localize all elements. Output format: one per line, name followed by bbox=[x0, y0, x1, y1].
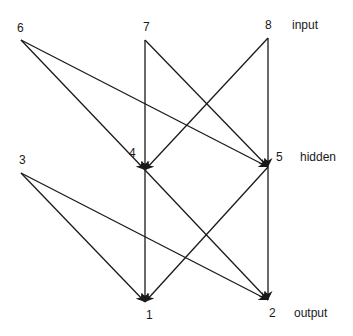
node-label-1: 1 bbox=[146, 309, 153, 321]
network-diagram bbox=[0, 0, 353, 336]
node-label-7: 7 bbox=[143, 21, 150, 33]
node-label-8: 8 bbox=[265, 19, 272, 31]
layer-label-input: input bbox=[292, 19, 318, 31]
node-label-3: 3 bbox=[19, 154, 26, 166]
layer-label-output: output bbox=[294, 307, 327, 319]
node-label-5: 5 bbox=[276, 151, 283, 163]
layer-label-hidden: hidden bbox=[300, 151, 336, 163]
edge-3-to-1 bbox=[21, 173, 145, 302]
edge-8-to-4 bbox=[145, 38, 268, 170]
edge-6-to-4 bbox=[21, 40, 145, 170]
node-label-6: 6 bbox=[17, 22, 24, 34]
edge-5-to-1 bbox=[145, 167, 268, 302]
edges-group bbox=[21, 38, 268, 302]
node-label-4: 4 bbox=[129, 147, 136, 159]
node-label-2: 2 bbox=[269, 307, 276, 319]
